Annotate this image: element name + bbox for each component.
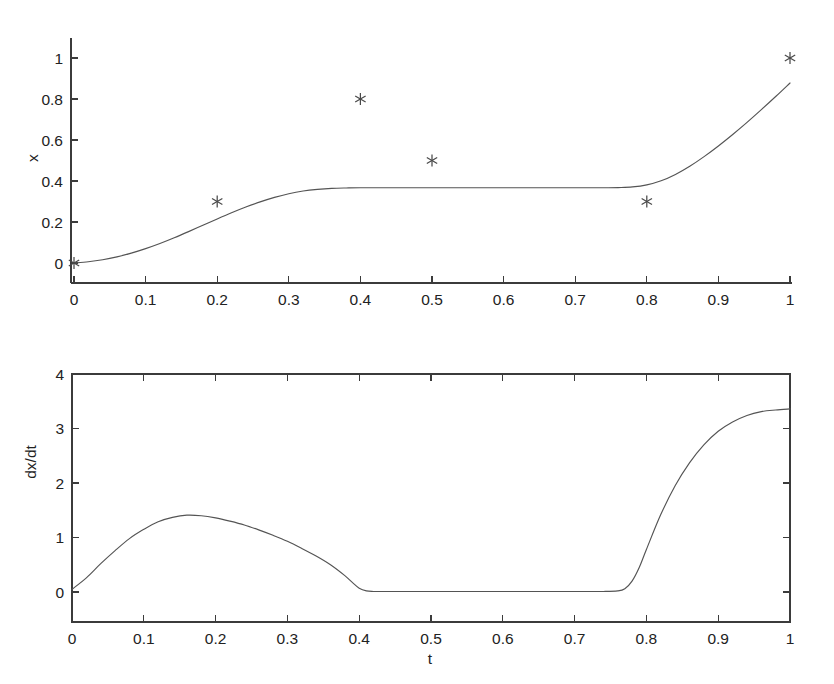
x-tick-label: 0.5 bbox=[420, 630, 442, 647]
x-tick-label: 0.9 bbox=[707, 630, 729, 647]
x-tick-label: 0 bbox=[70, 291, 79, 308]
derivative-plot-box bbox=[72, 374, 790, 622]
x-tick-label: 0.1 bbox=[135, 291, 157, 308]
x-tick-label: 1 bbox=[786, 630, 795, 647]
y-tick-label: 0 bbox=[54, 255, 63, 272]
x-tick-label: 0.3 bbox=[277, 630, 299, 647]
x-tick-label: 0.3 bbox=[278, 291, 300, 308]
y-tick-label: 0.8 bbox=[41, 91, 63, 108]
x-tick-label: 0.2 bbox=[205, 630, 227, 647]
x-tick-label: 0.6 bbox=[493, 291, 515, 308]
derivative-plot-ylabel: dx/dt bbox=[22, 445, 39, 479]
y-tick-label: 0.6 bbox=[41, 132, 63, 149]
derivative-plot-panel: 0123400.10.20.30.40.50.60.70.80.91 dx/dt… bbox=[0, 342, 834, 684]
x-tick-label: 0.8 bbox=[636, 291, 658, 308]
data-point-marker bbox=[355, 93, 365, 105]
x-tick-label: 0.6 bbox=[492, 630, 514, 647]
figure-canvas: 00.20.40.60.8100.10.20.30.40.50.60.70.80… bbox=[0, 0, 834, 684]
derivative-plot-svg: 0123400.10.20.30.40.50.60.70.80.91 dx/dt… bbox=[0, 342, 834, 684]
data-point-marker bbox=[642, 196, 652, 208]
x-tick-label: 0.7 bbox=[564, 630, 586, 647]
x-tick-label: 0.4 bbox=[348, 630, 370, 647]
derivative-curve bbox=[72, 409, 790, 592]
y-tick-label: 2 bbox=[55, 475, 64, 492]
x-tick-label: 0.7 bbox=[564, 291, 586, 308]
x-tick-label: 0.4 bbox=[350, 291, 372, 308]
position-plot-panel: 00.20.40.60.8100.10.20.30.40.50.60.70.80… bbox=[0, 0, 834, 342]
x-tick-label: 1 bbox=[786, 291, 795, 308]
x-tick-label: 0.2 bbox=[206, 291, 228, 308]
position-curve bbox=[74, 83, 790, 263]
x-tick-label: 0.9 bbox=[708, 291, 730, 308]
x-tick-label: 0 bbox=[68, 630, 77, 647]
y-tick-label: 0.4 bbox=[41, 173, 63, 190]
data-point-marker bbox=[427, 155, 437, 167]
x-tick-label: 0.1 bbox=[133, 630, 155, 647]
y-tick-label: 1 bbox=[54, 50, 63, 67]
x-tick-label: 0.5 bbox=[421, 291, 443, 308]
y-tick-label: 3 bbox=[55, 420, 64, 437]
y-tick-label: 4 bbox=[55, 366, 64, 383]
position-plot-ylabel: x bbox=[24, 154, 41, 162]
y-tick-label: 0 bbox=[55, 584, 64, 601]
data-point-marker bbox=[785, 52, 795, 64]
data-point-marker bbox=[212, 196, 222, 208]
derivative-plot-xlabel: t bbox=[428, 650, 433, 667]
y-tick-label: 0.2 bbox=[41, 214, 63, 231]
position-plot-svg: 00.20.40.60.8100.10.20.30.40.50.60.70.80… bbox=[0, 0, 834, 342]
x-tick-label: 0.8 bbox=[636, 630, 658, 647]
y-tick-label: 1 bbox=[55, 529, 64, 546]
